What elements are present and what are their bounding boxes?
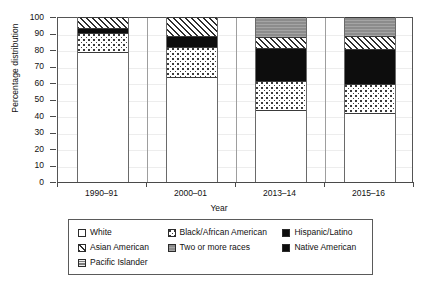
- category-separator: [236, 18, 237, 183]
- legend-swatch-hispanic: [282, 229, 290, 237]
- bar-segment: [345, 84, 395, 113]
- bar-segment: [78, 33, 128, 53]
- legend-item-white[interactable]: White: [78, 228, 168, 237]
- y-axis-tick: [50, 100, 56, 101]
- bar-segment: [167, 47, 217, 78]
- y-axis-tick-label: 30: [0, 128, 44, 137]
- x-axis-tick: [57, 182, 58, 187]
- bar-1990-91: [77, 17, 129, 182]
- legend-swatch-asian: [78, 244, 86, 252]
- bar-segment: [345, 36, 395, 49]
- y-axis-tick-label: 50: [0, 95, 44, 104]
- legend-swatch-white: [78, 229, 86, 237]
- legend-item-native[interactable]: Native American: [282, 243, 372, 252]
- bar-segment: [256, 81, 306, 110]
- legend-item-two[interactable]: Two or more races: [168, 243, 283, 252]
- legend-item-black-aa[interactable]: Black/African American: [168, 228, 283, 237]
- x-axis-tick: [146, 182, 147, 187]
- legend-swatch-native: [282, 244, 290, 252]
- bar-2000-01: [166, 17, 218, 182]
- y-axis-tick-label: 20: [0, 145, 44, 154]
- y-axis-tick-label: 80: [0, 46, 44, 55]
- y-axis-tick: [50, 166, 56, 167]
- legend-swatch-pacific: [78, 259, 86, 267]
- bar-segment: [78, 28, 128, 33]
- plot-area: [57, 17, 413, 182]
- bar-segment: [345, 49, 395, 84]
- legend-item-asian[interactable]: Asian American: [78, 243, 168, 252]
- bar-segment: [167, 36, 217, 47]
- y-axis-tick: [50, 17, 56, 18]
- legend-label: White: [90, 228, 112, 237]
- legend-label: Black/African American: [180, 228, 267, 237]
- bar-segment: [256, 37, 306, 49]
- y-axis-tick-label: 60: [0, 79, 44, 88]
- y-axis-tick: [50, 34, 56, 35]
- legend-item-hispanic[interactable]: Hispanic/Latino: [282, 228, 372, 237]
- y-axis-tick-label: 10: [0, 161, 44, 170]
- y-axis-tick-label: 90: [0, 29, 44, 38]
- legend-swatch-two: [168, 244, 176, 252]
- legend-item-pacific[interactable]: Pacific Islander: [78, 258, 170, 267]
- legend-row: WhiteBlack/African AmericanHispanic/Lati…: [78, 225, 372, 240]
- legend-row: Pacific Islander: [78, 255, 372, 270]
- bar-segment: [78, 17, 128, 28]
- chart-legend: WhiteBlack/African AmericanHispanic/Lati…: [68, 219, 373, 275]
- x-axis-tick: [324, 182, 325, 187]
- category-separator: [325, 18, 326, 183]
- legend-label: Native American: [294, 243, 356, 252]
- y-axis-tick: [50, 67, 56, 68]
- legend-label: Hispanic/Latino: [294, 228, 352, 237]
- y-axis-tick-label: 40: [0, 112, 44, 121]
- legend-swatch-black-aa: [168, 229, 176, 237]
- x-axis-tick: [235, 182, 236, 187]
- y-axis-tick-label: 100: [0, 13, 44, 22]
- y-axis-tick: [50, 50, 56, 51]
- bar-segment: [256, 48, 306, 81]
- x-axis-tick-label: 2000–01: [146, 188, 236, 198]
- legend-row: Asian AmericanTwo or more racesNative Am…: [78, 240, 372, 255]
- bar-segment: [256, 110, 306, 182]
- x-axis-tick-label: 2013–14: [235, 188, 325, 198]
- y-axis-tick-label: 0: [0, 178, 44, 187]
- legend-label: Asian American: [90, 243, 149, 252]
- y-axis-tick: [50, 116, 56, 117]
- bar-2013-14: [255, 17, 307, 182]
- chart-figure: Percentage distribution 0102030405060708…: [0, 0, 438, 291]
- legend-label: Pacific Islander: [90, 258, 148, 267]
- bar-segment: [345, 113, 395, 182]
- bar-segment: [256, 17, 306, 37]
- bar-segment: [167, 77, 217, 182]
- y-axis-tick: [50, 83, 56, 84]
- x-axis-tick-label: 2015–16: [324, 188, 414, 198]
- x-axis-tick: [413, 182, 414, 187]
- bar-segment: [167, 17, 217, 36]
- legend-label: Two or more races: [180, 243, 250, 252]
- x-axis-tick-label: 1990–91: [57, 188, 147, 198]
- bar-segment: [78, 52, 128, 182]
- category-separator: [147, 18, 148, 183]
- bar-2015-16: [344, 17, 396, 182]
- x-axis-title: Year: [0, 203, 438, 213]
- y-axis-tick: [50, 149, 56, 150]
- bar-segment: [345, 17, 395, 36]
- y-axis-tick: [50, 133, 56, 134]
- y-axis-tick: [50, 182, 56, 183]
- y-axis-tick-label: 70: [0, 62, 44, 71]
